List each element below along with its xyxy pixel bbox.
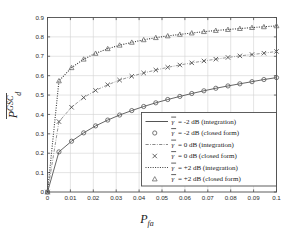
x-tick-label: 0.06 bbox=[179, 194, 192, 201]
legend-item-label: = -2 dB (closed form) bbox=[178, 129, 240, 137]
x-tick-label: 0 bbox=[46, 194, 50, 201]
legend-gamma-symbol: γ bbox=[172, 118, 175, 126]
x-tick-label: 0.03 bbox=[110, 194, 123, 201]
y-tick-label: 0 bbox=[41, 188, 45, 195]
legend-gamma-symbol: γ bbox=[172, 164, 175, 172]
x-tick-label: 0.09 bbox=[248, 194, 261, 201]
legend-gamma-symbol: γ bbox=[172, 152, 175, 160]
legend-gamma-symbol: γ bbox=[172, 129, 175, 137]
x-tick-label: 0.02 bbox=[87, 194, 100, 201]
y-tick-label: 0.5 bbox=[35, 91, 44, 98]
legend-gamma-symbol: γ bbox=[172, 175, 175, 183]
y-tick-label: 0.9 bbox=[35, 14, 44, 21]
y-tick-label: 0.2 bbox=[35, 149, 44, 156]
y-tick-label: 0.4 bbox=[35, 111, 44, 118]
legend-item-label: = 0 dB (integration) bbox=[178, 141, 235, 149]
y-tick-label: 0.8 bbox=[35, 33, 44, 40]
chart-figure: 00.010.020.030.040.050.060.070.080.090.1… bbox=[0, 0, 294, 237]
x-tick-label: 0.01 bbox=[64, 194, 77, 201]
x-tick-label: 0.05 bbox=[156, 194, 169, 201]
x-tick-label: 0.08 bbox=[225, 194, 238, 201]
legend-item-label: = +2 dB (integration) bbox=[178, 164, 238, 172]
y-tick-label: 0.6 bbox=[35, 72, 44, 79]
y-tick-label: 0.7 bbox=[35, 52, 44, 59]
legend-item-label: = -2 dB (integration) bbox=[178, 118, 237, 126]
x-tick-label: 0.1 bbox=[272, 194, 281, 201]
legend: γ= -2 dB (integration)γ= -2 dB (closed f… bbox=[142, 113, 277, 187]
x-tick-label: 0.07 bbox=[202, 194, 215, 201]
chart-canvas: 00.010.020.030.040.050.060.070.080.090.1… bbox=[0, 0, 294, 237]
y-tick-label: 0.1 bbox=[35, 169, 44, 176]
x-tick-label: 0.04 bbox=[133, 194, 146, 201]
legend-gamma-symbol: γ bbox=[172, 141, 175, 149]
y-tick-label: 0.3 bbox=[35, 130, 44, 137]
legend-item-label: = 0 dB (closed form) bbox=[178, 152, 237, 160]
legend-item-label: = +2 dB (closed form) bbox=[178, 175, 241, 183]
